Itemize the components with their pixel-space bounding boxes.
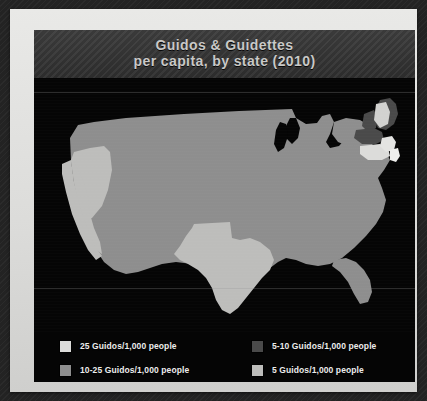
legend-label: 5 Guidos/1,000 people [272,365,364,375]
legend-swatch-5 [252,365,263,376]
legend-label: 25 Guidos/1,000 people [80,341,177,351]
legend-swatch-5-10 [252,341,263,352]
page-title: Guidos & Guidettes [156,38,294,54]
poster-title-band: Guidos & Guidettes per capita, by state … [34,30,415,78]
poster-frame: Guidos & Guidettes per capita, by state … [10,9,417,392]
map-legend: 25 Guidos/1,000 people 5-10 Guidos/1,000… [34,332,415,382]
poster-backdrop: Guidos & Guidettes per capita, by state … [0,0,427,401]
legend-item[interactable]: 10-25 Guidos/1,000 people [34,365,234,376]
us-choropleth-map [34,78,415,332]
legend-item[interactable]: 5-10 Guidos/1,000 people [234,341,415,352]
legend-item[interactable]: 5 Guidos/1,000 people [234,365,415,376]
infographic-poster: Guidos & Guidettes per capita, by state … [34,30,415,382]
legend-label: 10-25 Guidos/1,000 people [80,365,189,375]
legend-swatch-10-25 [60,365,71,376]
legend-item[interactable]: 25 Guidos/1,000 people [34,341,234,352]
legend-label: 5-10 Guidos/1,000 people [272,341,376,351]
page-subtitle: per capita, by state (2010) [134,54,316,70]
legend-row: 10-25 Guidos/1,000 people 5 Guidos/1,000… [34,358,415,382]
legend-swatch-25 [60,341,71,352]
map-region-florida [332,258,372,304]
map-stage [34,78,415,332]
map-region-rhode-island [390,148,400,162]
legend-row: 25 Guidos/1,000 people 5-10 Guidos/1,000… [34,334,415,358]
